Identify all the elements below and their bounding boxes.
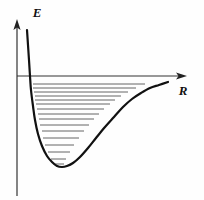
morse-potential-curve	[27, 30, 168, 167]
energy-axis-label: E	[32, 5, 42, 20]
axes-group	[13, 19, 187, 196]
distance-axis-label: R	[178, 83, 188, 98]
potential-energy-diagram: E R	[0, 0, 204, 200]
diagram-canvas: E R	[0, 0, 204, 200]
energy-levels-group	[33, 84, 145, 164]
